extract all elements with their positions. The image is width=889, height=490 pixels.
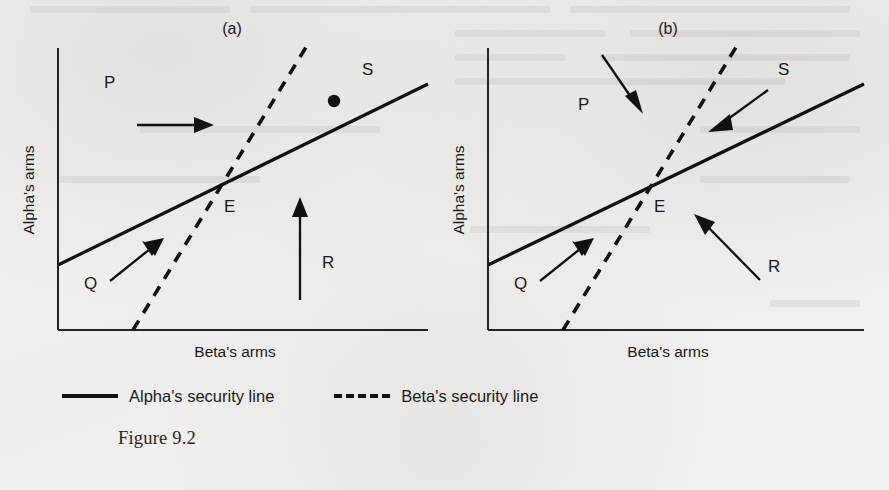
panel-a-region-label-q: Q <box>84 274 97 293</box>
panel-a-arrow-p-right <box>137 117 214 133</box>
panel-a-arrow-r-up <box>292 197 308 300</box>
panel-a-region-label-p: P <box>104 73 115 92</box>
panel-a-arrow-q-up-right <box>110 238 164 281</box>
panel-a-x-axis-label: Beta's arms <box>194 343 276 360</box>
panel-b-arrow-q-up-right <box>540 238 594 281</box>
panel-b: (b) E P S Q R <box>430 0 889 370</box>
panel-a-beta-security-line <box>133 44 308 330</box>
panel-a-equilibrium-label: E <box>224 197 235 216</box>
legend-entry-alpha: Alpha's security line <box>62 387 274 406</box>
panel-a-region-label-s: S <box>362 60 373 79</box>
panel-a: (a) E P S Q R <box>0 0 445 370</box>
panel-b-x-axis-label: Beta's arms <box>627 343 709 360</box>
legend-label-alpha: Alpha's security line <box>129 387 274 406</box>
panel-a-caption: (a) <box>222 20 242 37</box>
panel-b-arrow-r-up-left <box>694 214 760 280</box>
legend-entry-beta: Beta's security line <box>334 387 538 406</box>
panel-b-region-label-r: R <box>768 257 780 276</box>
panel-a-alpha-security-line <box>58 84 428 265</box>
panel-b-alpha-security-line <box>488 84 864 265</box>
panel-b-region-label-q: Q <box>514 274 527 293</box>
panel-b-arrow-s-down-left <box>708 90 768 132</box>
panel-a-y-axis-label: Alpha's arms <box>20 145 37 234</box>
panel-b-region-label-s: S <box>778 60 789 79</box>
legend-swatch-solid-line-icon <box>62 394 118 398</box>
panel-b-arrow-p-down-right <box>602 55 643 114</box>
panel-a-disequilibrium-point <box>328 95 340 107</box>
panel-b-region-label-p: P <box>578 95 589 114</box>
figure-legend: Alpha's security line Beta's security li… <box>62 383 762 409</box>
panel-b-caption: (b) <box>658 20 678 37</box>
panel-b-y-axis-label: Alpha's arms <box>450 145 467 234</box>
panel-b-equilibrium-label: E <box>654 197 665 216</box>
figure-caption: Figure 9.2 <box>118 428 196 449</box>
figure-9-2: (a) E P S Q R <box>0 0 889 490</box>
panel-b-beta-security-line <box>563 44 738 330</box>
panel-a-region-label-r: R <box>322 253 334 272</box>
legend-label-beta: Beta's security line <box>401 387 538 406</box>
legend-swatch-dashed-line-icon <box>334 394 390 398</box>
